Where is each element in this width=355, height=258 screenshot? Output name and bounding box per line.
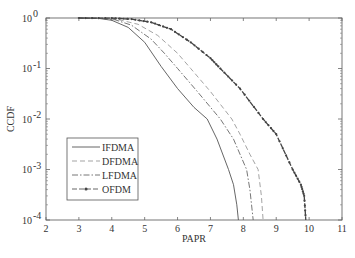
y-axis-title: CCDF: [5, 106, 16, 133]
x-tick-label: 4: [109, 223, 114, 234]
x-axis-title: PAPR: [182, 233, 206, 244]
data-marker: [209, 57, 211, 59]
legend-label: DFDMA: [102, 156, 139, 167]
data-marker: [248, 100, 250, 102]
data-marker: [142, 20, 144, 22]
data-marker: [215, 63, 217, 65]
data-marker: [111, 17, 113, 19]
x-tick-label: 2: [44, 223, 49, 234]
data-marker: [244, 94, 246, 96]
data-marker: [300, 184, 302, 186]
data-marker: [303, 200, 305, 202]
data-marker: [300, 186, 302, 188]
data-marker: [186, 39, 188, 41]
data-marker: [91, 17, 93, 19]
data-marker: [178, 33, 180, 35]
legend-label: IFDMA: [102, 142, 135, 153]
data-marker: [239, 87, 241, 89]
x-tick-label: 6: [175, 223, 180, 234]
y-tick-label: 10: [22, 114, 32, 125]
ccdf-chart: 234567891011 10010-110-210-310-4 PAPR CC…: [0, 0, 355, 258]
data-marker: [138, 19, 140, 21]
data-marker: [182, 36, 184, 38]
x-tick-label: 7: [208, 223, 213, 234]
legend-label: LFDMA: [102, 170, 138, 181]
data-marker: [150, 21, 152, 23]
x-tick-label: 11: [337, 223, 347, 234]
data-marker: [205, 54, 207, 56]
data-marker: [270, 127, 272, 129]
x-tick-label: 5: [142, 223, 147, 234]
x-tick-label: 10: [304, 223, 314, 234]
data-marker: [282, 147, 284, 149]
y-tick-exponent: -2: [33, 109, 41, 120]
data-marker: [217, 65, 219, 67]
data-marker: [265, 121, 267, 123]
data-marker: [272, 130, 274, 132]
data-marker: [253, 106, 255, 108]
y-tick-exponent: -1: [33, 59, 41, 70]
y-tick-label: 10: [22, 13, 32, 24]
data-marker: [115, 17, 117, 19]
data-marker: [162, 25, 164, 27]
data-marker: [302, 193, 304, 195]
data-marker: [257, 112, 259, 114]
data-marker: [285, 154, 287, 156]
marker-icon: [84, 187, 87, 190]
data-marker: [190, 41, 192, 43]
y-tick-exponent: 0: [33, 8, 38, 19]
data-marker: [201, 51, 203, 53]
data-marker: [134, 19, 136, 21]
data-marker: [213, 61, 215, 63]
data-marker: [194, 44, 196, 46]
data-marker: [146, 21, 148, 23]
data-marker: [158, 24, 160, 26]
x-tick-label: 9: [274, 223, 279, 234]
y-tick-exponent: -3: [33, 160, 41, 171]
data-marker: [98, 17, 100, 19]
data-marker: [231, 79, 233, 81]
data-marker: [262, 118, 264, 120]
legend-label: OFDM: [102, 184, 131, 195]
data-marker: [304, 204, 306, 206]
data-marker: [170, 28, 172, 30]
x-axis: 234567891011: [44, 18, 347, 234]
data-marker: [123, 18, 125, 20]
data-marker: [278, 140, 280, 142]
data-marker: [227, 75, 229, 77]
data-marker: [297, 178, 299, 180]
data-marker: [223, 71, 225, 73]
y-tick-label: 10: [22, 63, 32, 74]
data-marker: [78, 17, 80, 19]
data-marker: [104, 17, 106, 19]
x-tick-label: 3: [76, 223, 81, 234]
data-marker: [130, 18, 132, 20]
data-marker: [174, 31, 176, 33]
data-marker: [288, 161, 290, 163]
legend: IFDMA DFDMA LFDMA OFDM: [67, 138, 139, 200]
data-marker: [295, 174, 297, 176]
data-marker: [119, 17, 121, 19]
x-tick-label: 8: [241, 223, 246, 234]
data-marker: [292, 168, 294, 170]
data-marker: [84, 17, 86, 19]
data-marker: [293, 171, 295, 173]
data-marker: [304, 214, 306, 216]
data-marker: [198, 48, 200, 50]
data-marker: [126, 18, 128, 20]
data-marker: [267, 124, 269, 126]
y-tick-exponent: -4: [33, 210, 41, 221]
data-marker: [235, 83, 237, 85]
data-marker: [302, 190, 304, 192]
data-marker: [303, 195, 305, 197]
data-marker: [166, 27, 168, 29]
data-marker: [154, 23, 156, 25]
data-marker: [298, 181, 300, 183]
y-tick-label: 10: [22, 164, 32, 175]
data-marker: [304, 209, 306, 211]
data-marker: [211, 59, 213, 61]
y-tick-label: 10: [22, 215, 32, 226]
data-marker: [301, 188, 303, 190]
data-marker: [219, 67, 221, 69]
data-marker: [275, 133, 277, 135]
